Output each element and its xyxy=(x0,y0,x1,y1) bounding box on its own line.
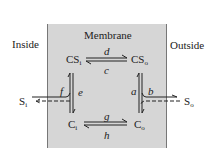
reaction-arrows xyxy=(0,0,222,154)
arrow-So-dashed xyxy=(141,101,180,104)
arrow-a xyxy=(137,73,139,113)
arrow-c xyxy=(86,61,127,64)
arrow-So-solid xyxy=(142,93,177,97)
arrow-Si-solid xyxy=(32,93,70,97)
arrow-h xyxy=(84,125,127,128)
arrow-e xyxy=(73,73,75,113)
arrow-Si-dashed xyxy=(36,99,70,103)
arrow-d xyxy=(86,55,127,58)
arrow-g xyxy=(84,119,127,122)
